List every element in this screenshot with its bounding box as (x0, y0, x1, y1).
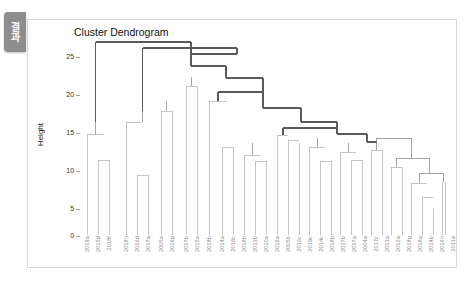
leaf-label: 2013b (252, 236, 258, 252)
leaf-label: 2011a (450, 236, 456, 252)
leaf-label: 2015d (95, 236, 101, 252)
leaf-label: 2019c (307, 236, 313, 252)
leaf-label: 2017c (373, 236, 379, 252)
leaf-label: 2004a (362, 236, 368, 252)
y-tick-5: 5– (70, 205, 80, 212)
leaf-label: 2019a (84, 236, 90, 252)
y-axis-ticks: 25– 20– 15– 10– 5– 0– (44, 20, 80, 267)
y-tick-15: 15– (66, 129, 80, 136)
leaf-label: 2018b (206, 236, 212, 252)
chart-panel: Cluster Dendrogram Height 25– 20– 15– 10… (27, 19, 457, 268)
leaf-label: 2017a (145, 236, 151, 252)
leaf-label: 2017a (351, 236, 357, 252)
leaf-label: 2018b (329, 236, 335, 252)
y-tick-25: 25– (66, 53, 80, 60)
leaf-label: 2017b (340, 236, 346, 252)
leaf-label: 2015a (194, 236, 200, 252)
y-tick-10: 10– (66, 167, 80, 174)
leaf-label: 2018c (230, 236, 236, 252)
leaf-label: 2012a (395, 236, 401, 252)
y-tick-0: 0– (70, 232, 80, 239)
leaf-label: 2010a (263, 236, 269, 252)
leaf-label: 2016a (274, 236, 280, 252)
leaf-label: 2005a (158, 236, 164, 252)
results-tab-label: 결과 (10, 22, 21, 42)
leaf-label-row: 2019a 2015d 2018f 2018h 2016d 2017a 2005… (81, 236, 451, 268)
leaf-label: 2014a (219, 236, 225, 252)
y-tick-20: 20– (66, 91, 80, 98)
results-side-tab[interactable]: 결과 (4, 12, 26, 52)
dendrogram-plot (81, 30, 451, 235)
leaf-label: 2018f (106, 236, 112, 251)
leaf-label: 2018a (417, 236, 423, 252)
leaf-label: 2016d (134, 236, 140, 252)
screenshot-root: 결과 Cluster Dendrogram Height 25– 20– 15–… (0, 0, 466, 286)
leaf-label: 2016h (439, 236, 445, 252)
leaf-label: 2017b (183, 236, 189, 252)
dendrogram-svg (81, 30, 451, 240)
leaf-label: 2018b (241, 236, 247, 252)
leaf-label: 2018g (406, 236, 412, 252)
leaf-label: 2018h (123, 236, 129, 252)
leaf-label: 2013a (384, 236, 390, 252)
leaf-label: 2016c (296, 236, 302, 252)
leaf-label: 2014b (428, 236, 434, 252)
leaf-label: 2014c (318, 236, 324, 252)
leaf-label: 2016g (169, 236, 175, 252)
leaf-label: 2005b (285, 236, 291, 252)
